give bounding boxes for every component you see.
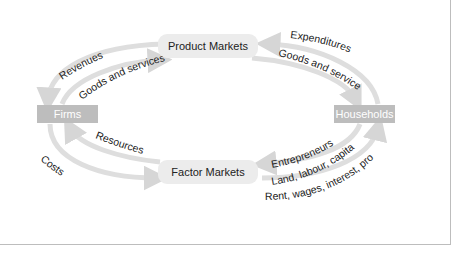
factor-markets-node: Factor Markets <box>158 160 258 184</box>
households-label: Households <box>335 108 393 120</box>
firms-node: Firms <box>37 105 98 123</box>
expenditures-label: Expenditures <box>290 28 353 54</box>
firms-label: Firms <box>54 108 82 120</box>
product-markets-node: Product Markets <box>158 34 258 58</box>
costs-label: Costs <box>39 152 67 177</box>
households-node: Households <box>334 105 395 123</box>
factor-markets-label: Factor Markets <box>171 166 244 178</box>
product-markets-label: Product Markets <box>168 40 248 52</box>
